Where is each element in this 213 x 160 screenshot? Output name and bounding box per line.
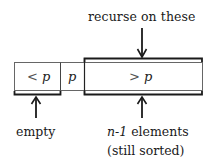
elements-text: elements [127, 124, 189, 139]
pivot-symbol: p [144, 69, 152, 84]
bottom-bracket-right [85, 91, 203, 95]
n-minus-1-math: n-1 [107, 124, 127, 139]
arrow-up-icon [138, 97, 147, 118]
cell-greater-than-pivot: > p [129, 70, 152, 83]
top-bracket [85, 59, 203, 63]
top-annotation: recurse on these [88, 11, 196, 24]
operator-less-than: < [27, 69, 38, 84]
pivot-symbol: p [68, 69, 76, 84]
arrow-down-icon [138, 28, 147, 57]
operator-greater-than: > [129, 69, 140, 84]
pivot-symbol: p [42, 69, 50, 84]
bottom-bracket-left [15, 91, 61, 95]
bottom-right-annotation-line1: n-1 elements [107, 126, 189, 139]
cell-less-than-pivot: < p [27, 70, 50, 83]
arrow-up-icon [32, 97, 41, 118]
quicksort-partition-diagram: recurse on these < p p > p empty n-1 ele… [0, 0, 213, 160]
bottom-right-annotation-line2: (still sorted) [107, 145, 185, 158]
bottom-left-annotation: empty [16, 126, 55, 139]
cell-pivot: p [68, 70, 76, 83]
